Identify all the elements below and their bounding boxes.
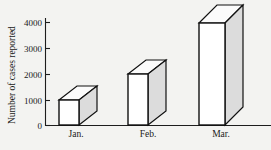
bar-group-mar <box>199 5 243 125</box>
x-axis-label-mar: Mar. <box>212 129 230 139</box>
y-tick-label-0: 0 <box>38 121 43 131</box>
y-axis-title: Number of cases reported <box>7 26 17 124</box>
bar-group-feb <box>128 60 166 125</box>
y-tick-label-4000: 4000 <box>24 18 43 28</box>
y-tick-label-1000: 1000 <box>24 96 43 106</box>
chart-canvas: Number of cases reported 4000 3000 2000 … <box>0 0 271 150</box>
bar-front-face-feb <box>128 74 148 125</box>
bar-front-face-mar <box>199 23 225 125</box>
bar-group-jan <box>59 86 97 125</box>
bar-front-face-jan <box>59 100 79 125</box>
y-tick-marks <box>46 23 51 126</box>
bar-side-face-mar <box>225 5 243 125</box>
y-tick-label-2000: 2000 <box>24 70 43 80</box>
x-axis-label-jan: Jan. <box>68 129 83 139</box>
bar-chart-figure: Number of cases reported 4000 3000 2000 … <box>0 0 271 150</box>
x-axis-label-feb: Feb. <box>140 129 157 139</box>
y-tick-label-3000: 3000 <box>24 44 43 54</box>
